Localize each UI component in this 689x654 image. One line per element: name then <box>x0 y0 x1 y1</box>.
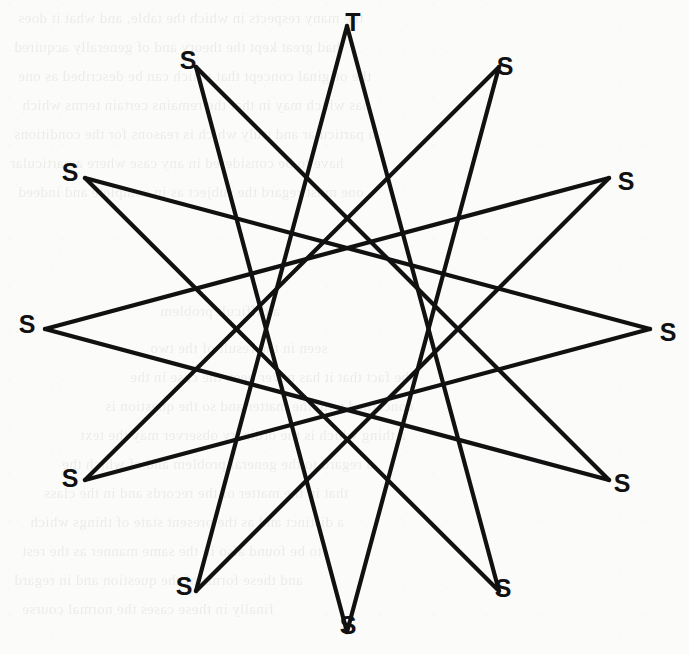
vertex-label-v8: S <box>62 464 79 493</box>
vertex-label-v9: S <box>19 310 36 339</box>
vertex-label-v2: S <box>618 167 635 196</box>
vertex-label-v4: S <box>614 469 631 498</box>
vertex-label-v1: S <box>497 52 514 81</box>
vertex-label-v10: S <box>62 158 79 187</box>
vertex-label-v7: S <box>176 572 193 601</box>
scanned-page: the many respects in which the table, an… <box>0 0 689 654</box>
vertex-label-v0: T <box>345 8 360 37</box>
vertex-label-v11: S <box>180 46 197 75</box>
vertex-label-v5: S <box>495 574 512 603</box>
star-polygon-figure: TSSSSSSSSSSS <box>0 0 689 654</box>
vertex-label-v6: S <box>340 611 357 640</box>
star-polygon-lines <box>0 0 689 654</box>
vertex-label-v3: S <box>660 318 677 347</box>
